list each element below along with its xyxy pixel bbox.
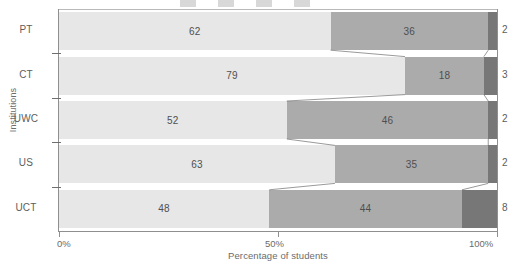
y-axis-tick	[52, 53, 61, 54]
bar-segment-uct-series-3	[462, 190, 497, 228]
y-axis-tick	[52, 98, 61, 99]
segment-value-label: 35	[406, 159, 418, 170]
x-tick-50%	[278, 232, 279, 237]
outside-value-label-pt: 2	[502, 24, 518, 35]
bar-segment-us-series-2: 35	[335, 145, 488, 183]
bar-segment-uct-series-1: 48	[59, 190, 269, 228]
legend-swatch-4	[294, 0, 310, 7]
bar-segment-pt-series-2: 36	[331, 12, 489, 50]
bar-uwc: 5246	[0, 101, 518, 139]
segment-value-label: 79	[226, 70, 238, 81]
bar-ct: 7918	[0, 57, 518, 95]
outside-value-label-ct: 3	[502, 69, 518, 80]
segment-value-label: 52	[167, 115, 179, 126]
segment-value-label: 62	[189, 26, 201, 37]
bar-segment-uwc-series-2: 46	[287, 101, 488, 139]
bar-segment-uct-series-2: 44	[269, 190, 462, 228]
bar-segment-us-series-3	[488, 145, 497, 183]
segment-value-label: 18	[439, 70, 451, 81]
bar-segment-pt-series-3	[488, 12, 497, 50]
bar-segment-ct-series-2: 18	[405, 57, 484, 95]
segment-value-label: 44	[360, 203, 372, 214]
legend-cropped	[180, 0, 400, 7]
stacked-bar-chart: Institutions Percentage of students PTCT…	[0, 0, 518, 268]
outside-value-label-us: 2	[502, 157, 518, 168]
y-axis-tick	[52, 142, 61, 143]
bar-segment-us-series-1: 63	[59, 145, 335, 183]
segment-value-label: 48	[158, 203, 170, 214]
x-axis-title: Percentage of students	[59, 250, 497, 261]
bar-segment-ct-series-1: 79	[59, 57, 405, 95]
legend-swatch-1	[180, 0, 196, 7]
x-tick-label-50%: 50%	[265, 238, 284, 249]
outside-value-label-uct: 8	[502, 202, 518, 213]
x-tick-100%	[497, 232, 498, 237]
segment-value-label: 46	[382, 115, 394, 126]
bar-segment-uwc-series-3	[488, 101, 497, 139]
bar-segment-pt-series-1: 62	[59, 12, 331, 50]
plot-top-border	[59, 9, 497, 10]
legend-swatch-3	[256, 0, 272, 7]
segment-value-label: 36	[404, 26, 416, 37]
bar-segment-uwc-series-1: 52	[59, 101, 287, 139]
bar-uct: 4844	[0, 190, 518, 228]
bar-segment-ct-series-3	[484, 57, 497, 95]
bar-pt: 6236	[0, 12, 518, 50]
bar-us: 6335	[0, 145, 518, 183]
segment-value-label: 63	[191, 159, 203, 170]
legend-swatch-2	[218, 0, 234, 7]
x-tick-label-0%: 0%	[57, 238, 71, 249]
outside-value-label-uwc: 2	[502, 113, 518, 124]
x-tick-0%	[59, 232, 60, 237]
x-tick-label-100%: 100%	[469, 238, 493, 249]
y-axis-tick	[52, 187, 61, 188]
